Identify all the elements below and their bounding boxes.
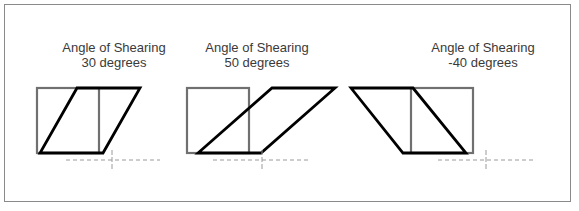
shearing-figures [0,0,579,211]
sheared-parallelogram [40,88,140,153]
shear-figure-1 [37,88,160,169]
shear-figure-2 [187,88,335,169]
sheared-parallelogram [198,88,335,153]
original-square [187,88,249,153]
sheared-parallelogram [351,88,466,153]
shear-figure-3 [351,88,533,169]
